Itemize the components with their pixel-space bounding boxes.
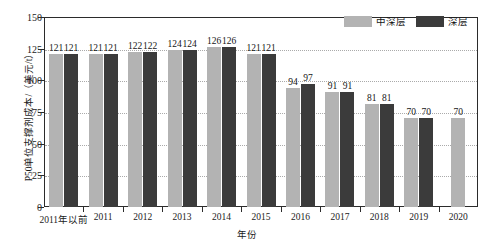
bars-layer: 1211211211211221221241241261261211219497…: [44, 17, 478, 207]
bar-value-label: 124: [182, 39, 196, 49]
bar-value-label: 70: [454, 107, 464, 117]
bar-value-label: 121: [49, 43, 63, 53]
x-tick-mark: [281, 207, 282, 212]
x-tick-mark: [399, 207, 400, 212]
bar-dark: [340, 92, 354, 207]
bar-dark: [64, 54, 78, 207]
bar-light: [404, 118, 418, 207]
legend-item: 中深层: [344, 14, 406, 28]
bar-dark: [222, 47, 236, 207]
bar-light: [128, 52, 142, 207]
bar-light: [325, 92, 339, 207]
bar-value-label: 70: [407, 107, 417, 117]
bar-value-label: 121: [246, 43, 260, 53]
bar-value-label: 81: [382, 93, 392, 103]
legend: 中深层深层: [344, 14, 468, 28]
x-tick-label: 2011: [94, 212, 113, 222]
x-tick-mark: [123, 207, 124, 212]
bar-value-label: 91: [343, 81, 353, 91]
bar-dark: [262, 54, 276, 207]
bar-value-label: 126: [207, 36, 221, 46]
x-tick-label: 2018: [370, 212, 389, 222]
x-tick-mark: [162, 207, 163, 212]
x-tick-mark: [360, 207, 361, 212]
y-tick-label: 50: [6, 138, 42, 149]
x-tick-label: 2015: [252, 212, 271, 222]
bar-light: [168, 50, 182, 207]
bar-value-label: 94: [288, 77, 298, 87]
legend-item: 深层: [416, 14, 468, 28]
x-tick-label: 2011年以前: [39, 212, 88, 226]
bar-value-label: 121: [104, 43, 118, 53]
x-tick-mark: [320, 207, 321, 212]
x-axis-title: 年份: [0, 227, 493, 241]
bar-dark: [104, 54, 118, 207]
bar-value-label: 70: [422, 107, 432, 117]
bar-value-label: 121: [64, 43, 78, 53]
y-tick-label: 150: [6, 12, 42, 23]
bar-chart: P50单位支撑剂成本/（美元/t） 0255075100125150 12112…: [0, 0, 493, 252]
y-tick-label: 0: [6, 202, 42, 213]
bar-light: [89, 54, 103, 207]
legend-swatch-light: [344, 16, 372, 27]
bar-light: [286, 88, 300, 207]
bar-value-label: 97: [303, 73, 313, 83]
bar-value-label: 126: [222, 36, 236, 46]
bar-dark: [380, 104, 394, 207]
bar-dark: [143, 52, 157, 207]
bar-light: [247, 54, 261, 207]
legend-label: 深层: [448, 14, 468, 28]
x-tick-label: 2017: [330, 212, 349, 222]
bar-value-label: 122: [128, 41, 142, 51]
x-tick-mark: [202, 207, 203, 212]
y-tick-label: 100: [6, 75, 42, 86]
x-tick-mark: [83, 207, 84, 212]
bar-light: [49, 54, 63, 207]
x-tick-label: 2014: [212, 212, 231, 222]
bar-light: [207, 47, 221, 207]
y-tick-label: 75: [6, 107, 42, 118]
bar-value-label: 91: [328, 81, 338, 91]
x-tick-label: 2020: [449, 212, 468, 222]
x-tick-label: 2012: [133, 212, 152, 222]
bar-value-label: 122: [143, 41, 157, 51]
bar-value-label: 81: [367, 93, 377, 103]
bar-dark: [183, 50, 197, 207]
x-tick-mark: [439, 207, 440, 212]
bar-light: [365, 104, 379, 207]
x-tick-label: 2019: [409, 212, 428, 222]
bar-value-label: 121: [89, 43, 103, 53]
bar-value-label: 121: [261, 43, 275, 53]
bar-value-label: 124: [167, 39, 181, 49]
legend-swatch-dark: [416, 16, 444, 27]
legend-label: 中深层: [376, 14, 406, 28]
y-tick-label: 25: [6, 170, 42, 181]
x-tick-label: 2016: [291, 212, 310, 222]
x-tick-mark: [241, 207, 242, 212]
x-tick-label: 2013: [173, 212, 192, 222]
bar-dark: [301, 84, 315, 207]
y-tick-mark: [38, 207, 44, 208]
y-tick-label: 125: [6, 43, 42, 54]
bar-dark: [419, 118, 433, 207]
bar-light: [451, 118, 465, 207]
